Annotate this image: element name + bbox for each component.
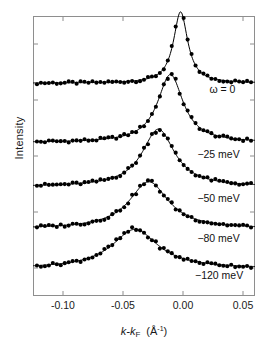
data-point <box>43 224 47 228</box>
data-point <box>94 253 98 257</box>
data-point <box>118 236 122 240</box>
data-point <box>209 221 213 225</box>
data-point <box>213 222 217 226</box>
data-point <box>166 77 170 81</box>
data-point <box>67 182 71 186</box>
data-point <box>166 59 170 63</box>
data-point <box>221 133 225 137</box>
data-point <box>63 225 67 229</box>
data-point <box>170 200 174 204</box>
data-point <box>229 263 233 267</box>
data-point <box>138 228 142 232</box>
data-point <box>98 177 102 181</box>
data-point <box>55 225 59 229</box>
data-point <box>249 266 253 270</box>
data-point <box>35 263 39 267</box>
data-point <box>205 260 209 264</box>
data-point <box>142 146 146 150</box>
data-point <box>225 264 229 268</box>
data-point <box>114 209 118 213</box>
x-axis-unit-open: (Å <box>146 325 157 337</box>
data-point <box>110 135 114 139</box>
data-point <box>213 77 217 81</box>
data-point <box>106 79 110 83</box>
data-point <box>98 136 102 140</box>
data-point <box>55 182 59 186</box>
curve-label-1: −25 meV <box>197 148 239 160</box>
data-point <box>217 134 221 138</box>
data-point <box>106 216 110 220</box>
curve-label-4: −120 meV <box>195 269 243 281</box>
data-point <box>249 80 253 84</box>
data-point <box>225 180 229 184</box>
data-point <box>193 173 197 177</box>
data-point <box>43 182 47 186</box>
data-point <box>55 262 59 266</box>
data-point <box>237 137 241 141</box>
data-point <box>201 72 205 76</box>
data-point <box>39 140 43 144</box>
data-point <box>43 264 47 268</box>
data-point <box>134 228 138 232</box>
data-point <box>205 73 209 77</box>
data-point <box>75 259 79 263</box>
data-point <box>186 257 190 261</box>
data-point <box>102 247 106 251</box>
data-point <box>82 137 86 141</box>
data-point <box>205 175 209 179</box>
data-point <box>82 257 86 261</box>
data-point <box>182 212 186 216</box>
data-point <box>86 180 90 184</box>
data-point <box>47 138 51 142</box>
data-point <box>162 193 166 197</box>
data-point <box>118 80 122 84</box>
x-tick-label-0: -0.10 <box>41 299 85 311</box>
data-point <box>134 192 138 196</box>
data-point <box>193 259 197 263</box>
data-point <box>110 80 114 84</box>
x-axis-title-main: k-k <box>121 325 136 337</box>
data-point <box>102 136 106 140</box>
data-point <box>86 81 90 85</box>
data-point <box>71 259 75 263</box>
data-point <box>94 81 98 85</box>
fit-curve-3 <box>33 182 255 227</box>
data-point <box>174 255 178 259</box>
data-point <box>233 223 237 227</box>
data-point <box>142 182 146 186</box>
data-point <box>138 125 142 129</box>
data-point <box>114 237 118 241</box>
data-point <box>237 223 241 227</box>
data-point <box>51 183 55 187</box>
data-point <box>190 170 194 174</box>
data-point <box>209 179 213 183</box>
data-point <box>90 138 94 142</box>
data-point <box>229 181 233 185</box>
data-point <box>174 207 178 211</box>
data-point <box>39 265 43 269</box>
data-point <box>201 175 205 179</box>
data-point <box>197 261 201 265</box>
data-point <box>122 205 126 209</box>
data-point <box>209 261 213 265</box>
data-point <box>79 79 83 83</box>
data-point <box>138 154 142 158</box>
data-point <box>90 255 94 259</box>
data-point <box>154 184 158 188</box>
data-point <box>39 223 43 227</box>
data-point <box>75 138 79 142</box>
data-point <box>98 219 102 223</box>
data-point <box>55 139 59 143</box>
data-point <box>39 81 43 85</box>
data-point <box>201 128 205 132</box>
fit-curve-0 <box>33 12 255 83</box>
data-point <box>94 219 98 223</box>
data-point <box>201 220 205 224</box>
data-point <box>249 225 253 229</box>
data-point <box>59 139 63 143</box>
data-point <box>79 260 83 264</box>
data-point <box>217 179 221 183</box>
data-point <box>166 136 170 140</box>
data-point <box>170 144 174 148</box>
data-point <box>59 182 63 186</box>
